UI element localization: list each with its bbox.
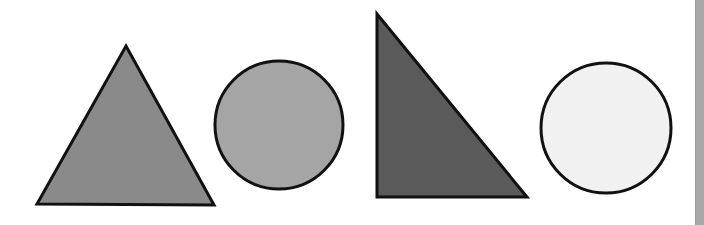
shapes-svg bbox=[0, 0, 704, 225]
gray-circle bbox=[215, 61, 343, 189]
right-edge-bar bbox=[695, 0, 704, 225]
light-circle bbox=[541, 63, 671, 193]
gray-isosceles-triangle bbox=[37, 46, 214, 205]
dark-right-triangle bbox=[377, 14, 527, 197]
shapes-canvas bbox=[0, 0, 704, 225]
